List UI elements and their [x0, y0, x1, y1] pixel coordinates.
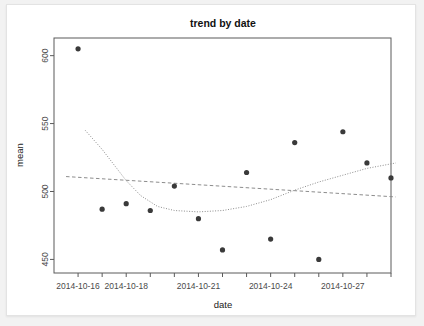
x-tick-label: 2014-10-18: [104, 281, 148, 291]
data-point: [124, 201, 129, 206]
y-tick-label: 500: [40, 184, 50, 198]
data-point: [220, 247, 225, 252]
data-points-group: [75, 46, 393, 262]
data-point: [268, 236, 273, 241]
x-tick-label: 2014-10-16: [56, 281, 100, 291]
y-tick-label: 550: [40, 116, 50, 130]
fit-line-loess-fit: [85, 130, 396, 212]
chart-plot-root: trend by date 450500550600 2014-10-16201…: [7, 5, 417, 317]
data-point: [292, 140, 297, 145]
data-point: [388, 175, 393, 180]
fit-line-linear-fit: [66, 177, 396, 197]
trend-by-date-chart: trend by date 450500550600 2014-10-16201…: [7, 5, 417, 317]
data-point: [340, 129, 345, 134]
chart-card: trend by date 450500550600 2014-10-16201…: [6, 4, 416, 316]
y-tick-label: 600: [40, 48, 50, 62]
plot-frame: [54, 38, 391, 273]
data-point: [148, 208, 153, 213]
y-tick-label: 450: [40, 252, 50, 266]
data-point: [172, 183, 177, 188]
x-tick-label: 2014-10-21: [177, 281, 221, 291]
y-axis-title: mean: [14, 143, 25, 167]
data-point: [100, 207, 105, 212]
data-point: [196, 216, 201, 221]
data-point: [316, 257, 321, 262]
page-title: trend by date: [190, 17, 256, 29]
x-tick-label: 2014-10-24: [249, 281, 293, 291]
data-point: [364, 160, 369, 165]
fit-lines-group: [66, 130, 396, 212]
x-axis-title: date: [214, 299, 233, 310]
data-point: [244, 170, 249, 175]
x-axis-ticks: 2014-10-162014-10-182014-10-212014-10-24…: [56, 273, 391, 291]
x-tick-label: 2014-10-27: [321, 281, 365, 291]
data-point: [75, 46, 80, 51]
y-axis-ticks: 450500550600: [40, 48, 54, 266]
